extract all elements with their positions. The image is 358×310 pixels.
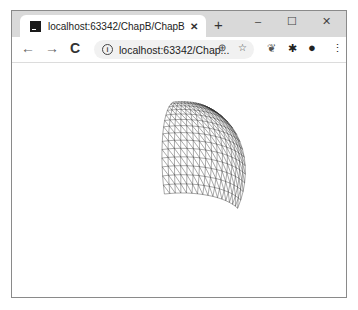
tab-title: localhost:63342/ChapB/ChapB xyxy=(48,21,186,32)
profile-avatar-icon[interactable]: ● xyxy=(308,40,316,55)
zoom-icon[interactable]: ⊕ xyxy=(218,42,226,53)
address-bar[interactable]: i localhost:63342/Chap... ⊕ ☆ xyxy=(94,40,254,59)
browser-window: localhost:63342/ChapB/ChapB ✕ + – ☐ ✕ ← … xyxy=(11,10,347,298)
window-close-button[interactable]: ✕ xyxy=(322,15,331,28)
extension-bird-icon[interactable]: ❦ xyxy=(267,42,276,55)
url-text[interactable]: localhost:63342/Chap... xyxy=(119,44,229,56)
browser-menu-icon[interactable]: ⋮ xyxy=(332,42,343,55)
new-tab-button[interactable]: + xyxy=(214,16,223,33)
site-info-icon[interactable]: i xyxy=(102,44,113,55)
browser-toolbar: ← → C i localhost:63342/Chap... ⊕ ☆ ❦ ✱ … xyxy=(12,37,346,63)
tab-strip: localhost:63342/ChapB/ChapB ✕ + – ☐ ✕ xyxy=(12,11,346,37)
reload-button[interactable]: C xyxy=(70,40,80,56)
maximize-button[interactable]: ☐ xyxy=(287,15,297,28)
bookmark-star-icon[interactable]: ☆ xyxy=(238,42,247,53)
back-button[interactable]: ← xyxy=(21,40,35,56)
page-canvas[interactable] xyxy=(12,63,346,297)
active-tab[interactable]: localhost:63342/ChapB/ChapB ✕ xyxy=(20,15,206,37)
extensions-puzzle-icon[interactable]: ✱ xyxy=(288,42,297,55)
wireframe-surface xyxy=(12,63,348,297)
tab-close-button[interactable]: ✕ xyxy=(190,21,198,32)
intellij-icon xyxy=(30,21,41,32)
minimize-button[interactable]: – xyxy=(255,15,261,27)
forward-button[interactable]: → xyxy=(45,40,59,56)
